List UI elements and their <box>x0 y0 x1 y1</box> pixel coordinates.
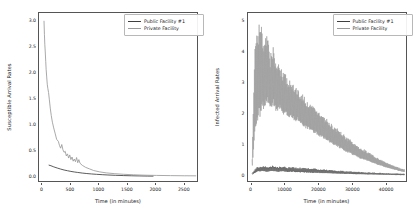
series-line-private <box>252 25 405 172</box>
x-tick-mark <box>98 183 99 185</box>
y-tick-labels-left: 0.00.51.01.52.02.53.0 <box>16 12 36 182</box>
legend-swatch-public-icon <box>128 21 141 22</box>
x-tick-label: 1500 <box>121 187 133 192</box>
x-tick-mark <box>251 183 252 185</box>
x-axis-label-infected: Time (in minutes) <box>247 198 407 204</box>
x-tick-label: 1000 <box>92 187 104 192</box>
legend-infected: Public Facility #1 Private Facility <box>333 14 413 36</box>
y-tick-labels-right: 012345 <box>225 12 245 182</box>
x-axis-label-susceptible: Time (in minutes) <box>38 198 198 204</box>
susceptible-plot-lines <box>39 13 198 182</box>
panel-susceptible: Susceptible Arrival Rates 0.00.51.01.52.… <box>0 0 209 217</box>
x-tick-label: 0 <box>40 187 43 192</box>
series-line-private <box>44 21 196 176</box>
legend-label-public: Public Facility #1 <box>353 19 394 24</box>
x-tick-mark <box>70 183 71 185</box>
x-tick-label: 2500 <box>178 187 190 192</box>
x-tick-label: 30000 <box>345 187 360 192</box>
y-tick-label: 0 <box>242 173 245 178</box>
plot-area-susceptible <box>38 12 198 182</box>
y-axis-label-susceptible: Susceptible Arrival Rates <box>2 12 16 182</box>
y-axis-label-infected: Infected Arrival Rates <box>211 12 225 182</box>
legend-swatch-private-icon <box>128 28 141 29</box>
x-tick-mark <box>284 183 285 185</box>
y-tick-label: 2.0 <box>29 69 36 74</box>
legend-item-public: Public Facility #1 <box>128 18 200 26</box>
panel-infected: Infected Arrival Rates 012345 0100002000… <box>209 0 417 217</box>
plot-area-infected <box>247 12 407 182</box>
y-tick-label: 1 <box>242 142 245 147</box>
x-tick-mark <box>318 183 319 185</box>
x-tick-label: 500 <box>65 187 74 192</box>
y-tick-label: 4 <box>242 48 245 53</box>
y-tick-label: 1.5 <box>29 95 36 100</box>
x-tick-labels-right: 010000200003000040000 <box>247 183 407 195</box>
series-line-public <box>252 166 405 175</box>
x-tick-mark <box>41 183 42 185</box>
x-tick-mark <box>127 183 128 185</box>
x-tick-label: 40000 <box>379 187 394 192</box>
x-tick-mark <box>386 183 387 185</box>
legend-item-private: Private Facility <box>337 25 409 33</box>
legend-susceptible: Public Facility #1 Private Facility <box>124 14 204 36</box>
y-tick-label: 3 <box>242 79 245 84</box>
y-tick-label: 2 <box>242 111 245 116</box>
y-tick-label: 5 <box>242 17 245 22</box>
y-tick-label: 0.0 <box>29 173 36 178</box>
y-tick-label: 0.5 <box>29 147 36 152</box>
y-tick-label: 1.0 <box>29 121 36 126</box>
y-tick-label: 3.0 <box>29 17 36 22</box>
legend-swatch-public-icon <box>337 21 350 22</box>
legend-item-public: Public Facility #1 <box>337 18 409 26</box>
x-tick-label: 10000 <box>277 187 292 192</box>
infected-plot-lines <box>248 13 407 182</box>
legend-label-public: Public Facility #1 <box>144 19 185 24</box>
x-tick-label: 0 <box>249 187 252 192</box>
series-line-public <box>49 165 154 176</box>
y-tick-label: 2.5 <box>29 43 36 48</box>
x-tick-labels-left: 05001000150020002500 <box>38 183 198 195</box>
x-tick-label: 2000 <box>149 187 161 192</box>
legend-item-private: Private Facility <box>128 25 200 33</box>
figure: Susceptible Arrival Rates 0.00.51.01.52.… <box>0 0 417 217</box>
legend-label-private: Private Facility <box>144 26 179 31</box>
legend-swatch-private-icon <box>337 28 350 29</box>
x-tick-mark <box>184 183 185 185</box>
x-tick-mark <box>155 183 156 185</box>
x-tick-mark <box>352 183 353 185</box>
x-tick-label: 20000 <box>311 187 326 192</box>
legend-label-private: Private Facility <box>353 26 388 31</box>
